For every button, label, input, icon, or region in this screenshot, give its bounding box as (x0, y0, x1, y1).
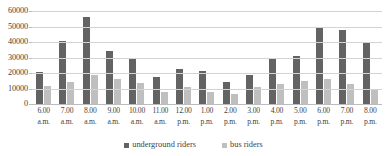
gridline (32, 42, 382, 43)
x-axis-label-meridiem: p.m. (242, 117, 265, 128)
bar-bus[interactable] (207, 92, 214, 104)
x-axis-label-hour: 3.00 (247, 106, 260, 115)
y-axis-tick-label: 0 (24, 100, 28, 108)
x-axis-label-hour: 8.00 (364, 106, 377, 115)
x-axis-tick-label: 8.00p.m. (359, 106, 382, 132)
bar-underground[interactable] (153, 77, 160, 104)
x-axis-tick-label: 7.00a.m. (55, 106, 78, 132)
x-axis-label-hour: 4.00 (271, 106, 284, 115)
bar-chart: 6000050000400003000020000100000 6.00a.m.… (0, 0, 387, 156)
x-axis-label-meridiem: p.m. (335, 117, 358, 128)
x-axis-tick-label: 2.00p.m. (219, 106, 242, 132)
y-axis: 6000050000400003000020000100000 (0, 0, 30, 112)
legend-swatch-icon (222, 143, 227, 148)
x-axis-label-meridiem: p.m. (195, 117, 218, 128)
y-axis-tick-mark (29, 11, 32, 12)
y-axis-tick-label: 60000 (8, 7, 28, 15)
gridline (32, 73, 382, 74)
bar-underground[interactable] (176, 69, 183, 104)
x-axis-label-meridiem: p.m. (359, 117, 382, 128)
bar-bus[interactable] (137, 83, 144, 104)
bar-bus[interactable] (91, 75, 98, 104)
y-axis-tick-mark (29, 42, 32, 43)
x-axis-label-meridiem: a.m. (149, 117, 172, 128)
bar-underground[interactable] (223, 82, 230, 104)
bar-underground[interactable] (246, 75, 253, 104)
bar-bus[interactable] (301, 81, 308, 104)
x-axis-tick-label: 5.00p.m. (289, 106, 312, 132)
legend-item[interactable]: underground riders (124, 141, 196, 149)
chart-legend: underground ridersbus riders (0, 137, 387, 153)
x-axis-label-hour: 1.00 (201, 106, 214, 115)
bar-bus[interactable] (254, 87, 261, 104)
x-axis-label-meridiem: p.m. (172, 117, 195, 128)
bar-bus[interactable] (161, 92, 168, 104)
y-axis-tick-mark (29, 104, 32, 105)
plot-wrapper: 6000050000400003000020000100000 (0, 0, 387, 112)
bar-bus[interactable] (347, 84, 354, 104)
bar-underground[interactable] (129, 58, 136, 104)
y-axis-tick-mark (29, 89, 32, 90)
y-axis-tick-label: 40000 (8, 38, 28, 46)
bar-bus[interactable] (114, 79, 121, 104)
x-axis-label-meridiem: a.m. (32, 117, 55, 128)
y-axis-tick-mark (29, 58, 32, 59)
x-axis-label-meridiem: p.m. (312, 117, 335, 128)
x-axis-label-meridiem: a.m. (125, 117, 148, 128)
legend-label: bus riders (230, 141, 263, 149)
y-axis-tick-mark (29, 73, 32, 74)
bar-bus[interactable] (231, 94, 238, 104)
bar-underground[interactable] (316, 28, 323, 104)
x-axis-label-hour: 9.00 (107, 106, 120, 115)
bar-underground[interactable] (106, 51, 113, 104)
x-axis-tick-label: 8.00a.m. (79, 106, 102, 132)
x-axis-label-hour: 5.00 (294, 106, 307, 115)
x-axis-label-meridiem: p.m. (265, 117, 288, 128)
x-axis-label-hour: 7.00 (341, 106, 354, 115)
gridline (32, 11, 382, 12)
gridline (32, 58, 382, 59)
y-axis-tick-label: 50000 (8, 22, 28, 30)
y-axis-tick-label: 10000 (8, 84, 28, 92)
x-axis-tick-label: 3.00p.m. (242, 106, 265, 132)
x-axis-tick-label: 4.00p.m. (265, 106, 288, 132)
bar-bus[interactable] (324, 79, 331, 104)
x-axis-label-hour: 10.00 (129, 106, 145, 115)
x-axis-label-hour: 2.00 (224, 106, 237, 115)
x-axis-tick-label: 6.00p.m. (312, 106, 335, 132)
x-axis-label-hour: 7.00 (61, 106, 74, 115)
y-axis-tick-label: 30000 (8, 53, 28, 61)
x-axis-tick-label: 12.00p.m. (172, 106, 195, 132)
bar-underground[interactable] (339, 30, 346, 104)
x-axis-label-meridiem: a.m. (55, 117, 78, 128)
bar-underground[interactable] (83, 17, 90, 104)
x-axis-tick-label: 1.00p.m. (195, 106, 218, 132)
x-axis-tick-label: 9.00a.m. (102, 106, 125, 132)
x-axis-tick-label: 7.00p.m. (335, 106, 358, 132)
x-axis-label-hour: 6.00 (317, 106, 330, 115)
x-axis-label-hour: 11.00 (152, 106, 168, 115)
x-axis-tick-label: 11.00a.m. (149, 106, 172, 132)
y-axis-tick-label: 20000 (8, 69, 28, 77)
legend-swatch-icon (124, 143, 129, 148)
x-axis: 6.00a.m.7.00a.m.8.00a.m.9.00a.m.10.00a.m… (32, 106, 382, 132)
bar-bus[interactable] (184, 87, 191, 104)
x-axis-label-hour: 6.00 (37, 106, 50, 115)
bar-bus[interactable] (277, 84, 284, 104)
gridline (32, 89, 382, 90)
bar-bus[interactable] (67, 82, 74, 104)
x-axis-tick-label: 10.00a.m. (125, 106, 148, 132)
bar-underground[interactable] (199, 71, 206, 104)
legend-item[interactable]: bus riders (222, 141, 263, 149)
plot-area (32, 11, 382, 105)
x-axis-label-meridiem: p.m. (289, 117, 312, 128)
x-axis-label-hour: 12.00 (176, 106, 192, 115)
x-axis-label-hour: 8.00 (84, 106, 97, 115)
x-axis-label-meridiem: a.m. (102, 117, 125, 128)
bar-underground[interactable] (269, 59, 276, 104)
x-axis-label-meridiem: p.m. (219, 117, 242, 128)
bar-bus[interactable] (371, 89, 378, 104)
y-axis-tick-mark (29, 27, 32, 28)
bar-underground[interactable] (293, 56, 300, 104)
gridline (32, 27, 382, 28)
